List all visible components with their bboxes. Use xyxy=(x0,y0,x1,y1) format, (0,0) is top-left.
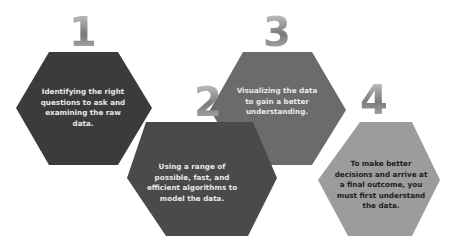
step-number-1: 1 xyxy=(63,12,103,52)
step-number-2: 2 xyxy=(188,82,228,122)
step-text-4: To make better decisions and arrive at a… xyxy=(331,159,431,212)
step-text-2: Using a range of possible, fast, and eff… xyxy=(143,162,241,204)
step-text-3: Visualizing the data to gain a better un… xyxy=(232,86,322,118)
step-number-3: 3 xyxy=(257,12,297,52)
step-number-4: 4 xyxy=(354,80,394,120)
step-text-1: Identifying the right questions to ask a… xyxy=(36,87,130,129)
